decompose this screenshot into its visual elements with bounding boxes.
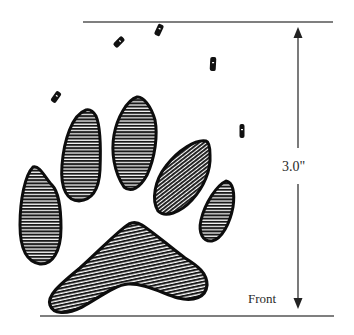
claw-mark [113, 36, 126, 49]
toe-pad-outer-left [20, 167, 61, 264]
heel-pad [50, 223, 207, 313]
arrow-up-icon [294, 27, 303, 38]
toe-pad-outer-right [200, 181, 234, 241]
claw-mark [50, 90, 62, 103]
claw-mark [210, 57, 217, 71]
toe-pad-center [113, 97, 156, 190]
measurement-label: 3.0" [281, 158, 306, 176]
front-label: Front [248, 292, 276, 305]
toe-pad-inner-left [62, 110, 101, 201]
claw-mark [240, 124, 245, 138]
paw-print-diagram: 3.0" Front [0, 0, 354, 335]
toe-pad-inner-right [155, 141, 211, 214]
arrow-down-icon [294, 298, 303, 309]
claw-mark [154, 23, 165, 36]
